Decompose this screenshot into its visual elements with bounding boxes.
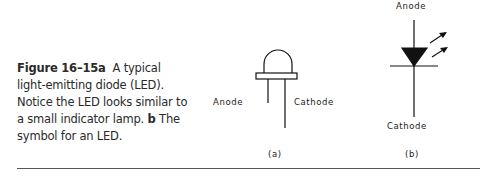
fig-a-cathode-label: Cathode [294,97,334,107]
fig-a-sub-label: (a) [268,149,282,159]
fig-b-sub-label: (b) [405,149,419,159]
led-physical-icon [256,50,297,128]
led-symbol-icon [390,20,448,117]
fig-a-anode-label: Anode [213,97,243,107]
horizontal-rule [17,168,480,169]
fig-b-cathode-label: Cathode [387,121,427,131]
fig-b-anode-label: Anode [396,1,426,11]
